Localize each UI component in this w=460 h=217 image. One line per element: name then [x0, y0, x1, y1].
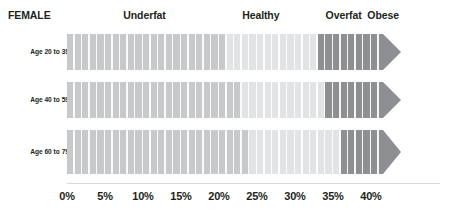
category-label-obese: Obese [367, 9, 399, 21]
category-label-healthy: Healthy [242, 9, 279, 21]
axis-tick-label: 15% [170, 190, 191, 202]
axis-tick-label: 30% [284, 190, 305, 202]
bar-segment-obese [363, 82, 383, 118]
row-label-age-group: Age 20 to 39 [0, 48, 69, 55]
bar-segment-overfat [318, 34, 364, 70]
category-label-overfat: Overfat [326, 9, 362, 21]
axis-tick-label: 40% [360, 190, 381, 202]
row-label-age-group: Age 60 to 79 [0, 148, 69, 155]
axis-tick-label: 5% [97, 190, 113, 202]
axis-tick-label: 0% [59, 190, 75, 202]
bar-arrow-head [383, 130, 401, 174]
axis-tick-label: 20% [208, 190, 229, 202]
bar-segment-underfat [67, 82, 242, 118]
chart-row: Age 60 to 79 [0, 130, 460, 174]
bar-body [67, 130, 383, 174]
chart-row: Age 40 to 59 [0, 82, 460, 118]
axis-tick-label: 25% [246, 190, 267, 202]
bar-segment-healthy [227, 34, 318, 70]
bar-body [67, 82, 383, 118]
chart-row: Age 20 to 39 [0, 34, 460, 70]
axis-rule [67, 183, 440, 184]
bar-body [67, 34, 383, 70]
category-label-underfat: Underfat [123, 9, 165, 21]
axis-tick-label: 35% [322, 190, 343, 202]
bar-segment-healthy [242, 82, 326, 118]
bar-segment-underfat [67, 130, 249, 174]
bar-segment-obese [363, 34, 383, 70]
body-fat-chart: FEMALE UnderfatHealthyOverfatObese Age 2… [0, 0, 460, 217]
bar-segment-underfat [67, 34, 227, 70]
chart-title-female: FEMALE [8, 9, 51, 21]
axis-tick-label: 10% [132, 190, 153, 202]
bar-segment-overfat [341, 130, 368, 174]
bar-arrow-head [383, 34, 401, 70]
bar-segment-overfat [325, 82, 363, 118]
bar-segment-obese [367, 130, 383, 174]
row-label-age-group: Age 40 to 59 [0, 96, 69, 103]
bar-segment-healthy [249, 130, 340, 174]
bar-arrow-head [383, 82, 401, 118]
